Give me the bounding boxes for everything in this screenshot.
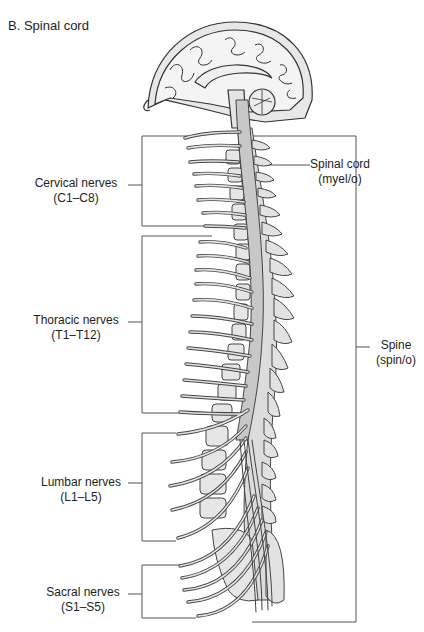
thoracic-bracket [128,236,212,413]
cervical-nerves-label: Cervical nerves (C1–C8) [26,176,126,206]
spine-combining-form: (spin/o) [366,353,424,368]
spinal-cord-label: Spinal cord (myel/o) [300,157,380,187]
thoracic-nerves-label: Thoracic nerves (T1–T12) [24,313,128,343]
lumbar-nerves-name: Lumbar nerves [34,475,128,490]
cervical-nerves-range: (C1–C8) [26,191,126,206]
lumbar-nerves-range: (L1–L5) [34,490,128,505]
thoracic-nerves-range: (T1–T12) [24,328,128,343]
sacral-nerves-name: Sacral nerves [38,585,128,600]
lumbar-nerves-label: Lumbar nerves (L1–L5) [34,475,128,505]
spine-label: Spine (spin/o) [366,338,424,368]
spine-name: Spine [366,338,424,353]
thoracic-nerves-name: Thoracic nerves [24,313,128,328]
spinal-cord-name: Spinal cord [300,157,380,172]
cervical-bracket [128,136,205,226]
cervical-nerves-name: Cervical nerves [26,176,126,191]
sacral-nerves-label: Sacral nerves (S1–S5) [38,585,128,615]
spinal-cord-combining-form: (myel/o) [300,172,380,187]
brain-illustration [144,22,312,128]
sacral-nerves-range: (S1–S5) [38,600,128,615]
